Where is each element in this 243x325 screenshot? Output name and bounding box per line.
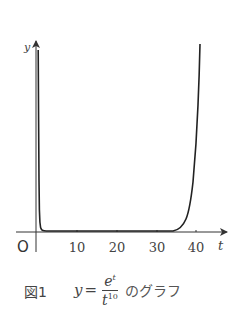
curve-left-branch (38, 50, 46, 231)
x-axis-label: t (218, 238, 224, 253)
fraction-numerator: et (102, 274, 118, 291)
x-tick-label-40: 40 (188, 240, 205, 255)
origin-label: O (17, 238, 29, 256)
caption-suffix: のグラフ (125, 280, 181, 300)
denominator-exponent: 10 (108, 292, 118, 301)
formula-y: y (74, 281, 82, 299)
y-axis-label: y (23, 41, 31, 54)
x-tick-label-20: 20 (109, 240, 126, 255)
figure-caption: 図1 y = et t10 のグラフ (0, 268, 243, 312)
fraction: et t10 (102, 274, 118, 307)
x-tick-label-10: 10 (69, 240, 86, 255)
formula-equals: = (84, 281, 97, 299)
figure-label: 図1 (24, 281, 47, 301)
formula: y = et t10 のグラフ (74, 268, 181, 312)
x-tick-label-30: 30 (149, 240, 166, 255)
fraction-denominator: t10 (102, 291, 118, 307)
curve-right-branch (46, 44, 200, 231)
numerator-base: e (104, 273, 112, 289)
numerator-exponent: t (113, 273, 116, 282)
